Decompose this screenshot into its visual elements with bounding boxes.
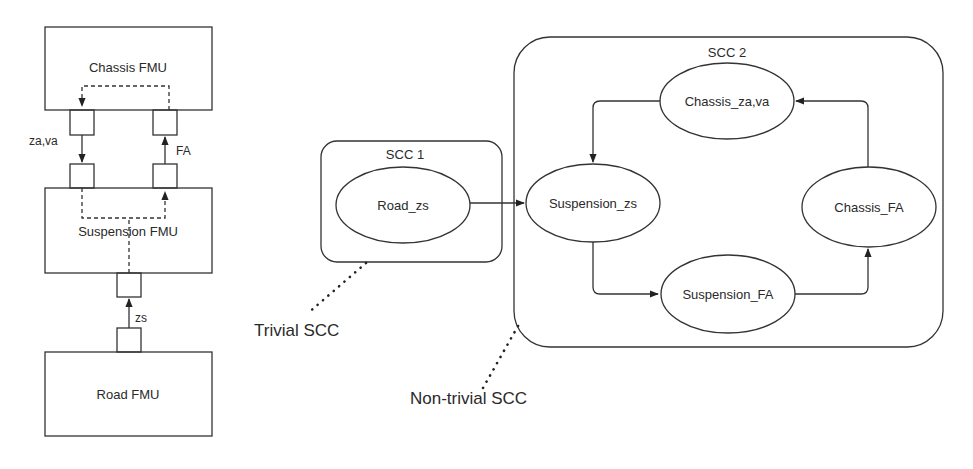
- suspension-output-port: [153, 164, 177, 188]
- zs-label: zs: [135, 311, 147, 325]
- road-fmu-label: Road FMU: [97, 387, 160, 402]
- node-chassis-fa-label: Chassis_FA: [834, 200, 904, 215]
- node-suspension-fa-label: Suspension_FA: [682, 287, 773, 302]
- non-trivial-scc-label: Non-trivial SCC: [410, 389, 527, 408]
- scc2-label: SCC 2: [708, 45, 746, 60]
- node-road-zs-label: Road_zs: [377, 198, 429, 213]
- suspension-input-port: [70, 164, 94, 188]
- non-trivial-scc-pointer: [483, 326, 518, 388]
- node-suspension-zs-label: Suspension_zs: [549, 196, 638, 211]
- chassis-output-port: [70, 110, 94, 135]
- za-va-label: za,va: [29, 134, 58, 148]
- fmu-diagram: Chassis FMU za,va FA Suspension FMU zs R…: [29, 27, 212, 436]
- scc1-label: SCC 1: [386, 147, 424, 162]
- chassis-internal-dependency: [82, 86, 169, 110]
- suspension-zs-input-port: [117, 273, 141, 297]
- scc-diagram: Chassis FMU za,va FA Suspension FMU zs R…: [0, 0, 973, 469]
- chassis-fmu-label: Chassis FMU: [89, 60, 167, 75]
- fa-label: FA: [176, 144, 191, 158]
- chassis-input-port: [153, 110, 177, 135]
- edge-chassis-za-va-to-suspension-zs: [593, 101, 660, 162]
- suspension-internal-dependency: [82, 188, 165, 218]
- edge-suspension-zs-to-suspension-fa: [593, 242, 658, 294]
- suspension-fmu-label: Suspension FMU: [78, 224, 178, 239]
- road-output-port: [117, 328, 141, 352]
- trivial-scc-pointer: [307, 263, 366, 314]
- node-chassis-za-va-label: Chassis_za,va: [685, 94, 770, 109]
- trivial-scc-label: Trivial SCC: [254, 321, 339, 340]
- edge-suspension-fa-to-chassis-fa: [795, 249, 868, 294]
- edge-chassis-fa-to-chassis-za-va: [796, 101, 868, 167]
- scc-graph: SCC 1 Road_zs SCC 2 Chassis_za,va Suspen…: [254, 37, 943, 408]
